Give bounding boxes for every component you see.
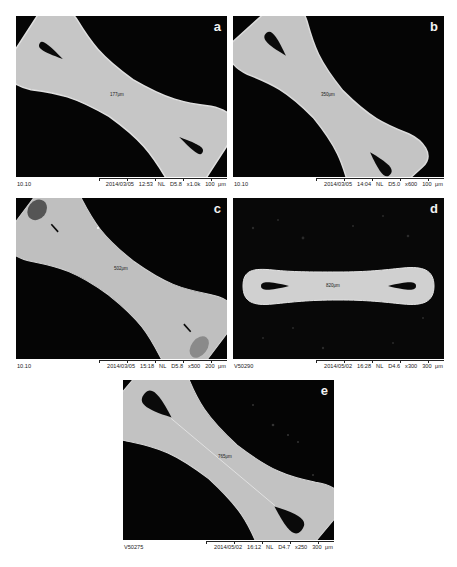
sem-info-bar: V50275 2014/05/0216:12NLD4.7x250300 μm bbox=[123, 541, 334, 553]
time: 16:28 bbox=[357, 363, 371, 369]
sample-id: 10.10 bbox=[17, 363, 31, 369]
date: 2014/03/05 bbox=[107, 363, 135, 369]
panel-letter: a bbox=[214, 19, 221, 34]
magnification: x300 bbox=[405, 363, 417, 369]
scale-tick bbox=[206, 541, 207, 544]
scale-bar bbox=[316, 178, 444, 179]
mode: NL bbox=[159, 363, 166, 369]
sample-id: 10.10 bbox=[17, 181, 31, 187]
sample-id: V50290 bbox=[234, 363, 253, 369]
time: 14:04 bbox=[357, 181, 371, 187]
sample-id: 10.10 bbox=[234, 181, 248, 187]
scale-bar bbox=[99, 178, 227, 179]
specimen-shape-e bbox=[123, 380, 334, 540]
specimen-shape-d bbox=[233, 198, 444, 359]
sem-image-a: a 177μm bbox=[16, 16, 227, 177]
thickness-label: 502μm bbox=[114, 266, 128, 271]
panel-letter: b bbox=[430, 19, 438, 34]
date: 2014/03/05 bbox=[324, 181, 352, 187]
thickness-label: 765μm bbox=[218, 454, 232, 459]
scale-bar bbox=[316, 360, 444, 361]
sample-id: V50275 bbox=[124, 544, 143, 550]
sem-info-bar: 10.10 2014/03/0514:04NLD5.0x600100 μm bbox=[233, 178, 444, 190]
sem-metadata: 2014/03/0512:53NLD5.8x1.0k100 μm bbox=[101, 181, 226, 187]
sem-metadata: 2014/03/0514:04NLD5.0x600100 μm bbox=[319, 181, 443, 187]
date: 2014/05/02 bbox=[324, 363, 352, 369]
scale-tick bbox=[316, 360, 317, 363]
thickness-label: 177μm bbox=[110, 92, 124, 97]
scale-label: 300 μm bbox=[422, 363, 443, 369]
panel-letter: c bbox=[214, 201, 221, 216]
magnification: x1.0k bbox=[187, 181, 200, 187]
sem-image-e: e 765μm bbox=[123, 380, 334, 540]
scale-label: 300 μm bbox=[312, 544, 333, 550]
scale-label: 100 μm bbox=[205, 181, 226, 187]
specimen-shape-c bbox=[16, 198, 227, 359]
panel-letter: e bbox=[321, 383, 328, 398]
panel-letter: d bbox=[430, 201, 438, 216]
mode: NL bbox=[376, 181, 383, 187]
specimen-shape-b bbox=[233, 16, 444, 177]
magnification: x500 bbox=[188, 363, 200, 369]
time: 16:12 bbox=[247, 544, 261, 550]
mode: NL bbox=[376, 363, 383, 369]
sem-info-bar: 10.10 2014/03/0512:53NLD5.8x1.0k100 μm bbox=[16, 178, 227, 190]
sem-image-d: d 820μm bbox=[233, 198, 444, 359]
magnification: x250 bbox=[295, 544, 307, 550]
working-distance: D5.0 bbox=[388, 181, 400, 187]
date: 2014/03/05 bbox=[106, 181, 134, 187]
sem-metadata: 2014/03/0515:18NLD5.8x500200 μm bbox=[102, 363, 226, 369]
working-distance: D5.8 bbox=[170, 181, 182, 187]
time: 15:18 bbox=[140, 363, 154, 369]
sem-image-c: c 502μm bbox=[16, 198, 227, 359]
sem-metadata: 2014/05/0216:28NLD4.6x300300 μm bbox=[319, 363, 443, 369]
working-distance: D4.7 bbox=[278, 544, 290, 550]
working-distance: D4.6 bbox=[388, 363, 400, 369]
sem-metadata: 2014/05/0216:12NLD4.7x250300 μm bbox=[209, 544, 333, 550]
magnification: x600 bbox=[405, 181, 417, 187]
scale-bar bbox=[99, 360, 227, 361]
time: 12:53 bbox=[139, 181, 153, 187]
sem-info-bar: V50290 2014/05/0216:28NLD4.6x300300 μm bbox=[233, 360, 444, 372]
date: 2014/05/02 bbox=[214, 544, 242, 550]
thickness-label: 820μm bbox=[326, 283, 340, 288]
sem-info-bar: 10.10 2014/03/0515:18NLD5.8x500200 μm bbox=[16, 360, 227, 372]
scale-tick bbox=[99, 178, 100, 181]
sem-image-b: b 350μm bbox=[233, 16, 444, 177]
scale-bar bbox=[206, 541, 334, 542]
mode: NL bbox=[158, 181, 165, 187]
scale-tick bbox=[99, 360, 100, 363]
thickness-label: 350μm bbox=[321, 92, 335, 97]
scale-label: 100 μm bbox=[422, 181, 443, 187]
working-distance: D5.8 bbox=[171, 363, 183, 369]
mode: NL bbox=[266, 544, 273, 550]
scale-tick bbox=[316, 178, 317, 181]
scale-label: 200 μm bbox=[205, 363, 226, 369]
